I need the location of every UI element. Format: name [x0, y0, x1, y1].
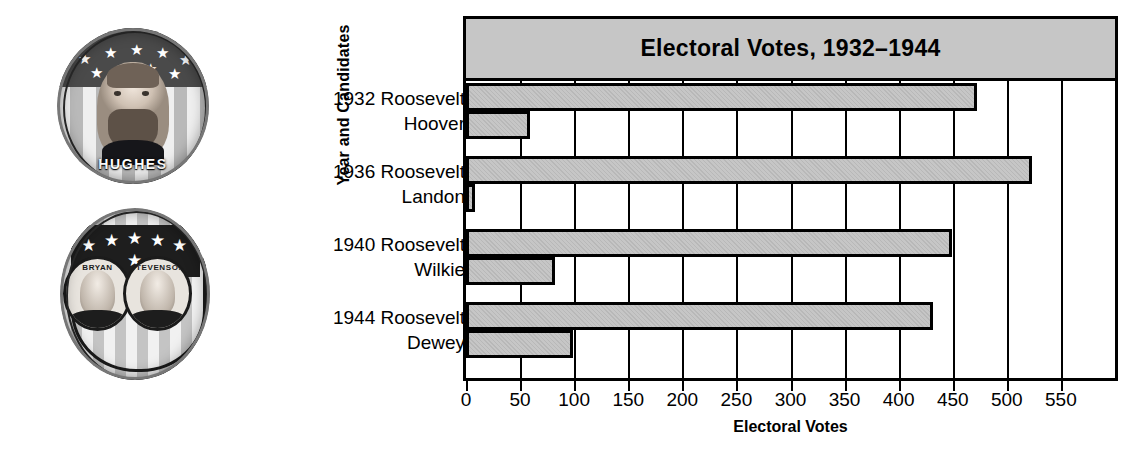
portrait-eye-left: [114, 91, 121, 96]
category-label-line-bottom: Wilkie: [270, 257, 465, 282]
star-icon: ★: [156, 45, 169, 60]
star-icon: ★: [78, 51, 91, 66]
hughes-portrait: [97, 62, 170, 159]
bar-1940-roosevelt: [466, 229, 952, 257]
portrait-hair: [107, 63, 160, 88]
plot-frame: Electoral Votes, 1932–1944: [463, 16, 1118, 381]
electoral-votes-bar-chart: Year and Candidates 1932 RooseveltHoover…: [230, 0, 1142, 453]
hughes-button-face: ★ ★ ★ ★ ★ ★ ★ ★ ★ HUGHES: [57, 28, 209, 184]
bar-1944-roosevelt: [466, 302, 933, 330]
chart-title: Electoral Votes, 1932–1944: [640, 35, 940, 62]
bar-1936-roosevelt: [466, 156, 1032, 184]
category-label-line-bottom: Hoover: [270, 111, 465, 136]
x-tick-label: 400: [883, 389, 915, 411]
portrait-shoulders: [130, 310, 185, 331]
x-tick-label: 250: [721, 389, 753, 411]
x-tick-label: 0: [461, 389, 472, 411]
category-label-line-bottom: Landon: [270, 184, 465, 209]
x-tick-label: 300: [775, 389, 807, 411]
campaign-button-photos: ★ ★ ★ ★ ★ ★ ★ ★ ★ HUGHES: [0, 0, 230, 453]
category-label-1944: 1944 RooseveltDewey: [270, 305, 465, 355]
plot-area: [466, 81, 1115, 378]
star-icon: ★: [104, 232, 119, 249]
gridline: [1007, 81, 1009, 378]
chart-title-band: Electoral Votes, 1932–1944: [466, 19, 1115, 81]
category-label-line-top: 1932 Roosevelt: [270, 86, 465, 111]
bar-1944-dewey: [466, 330, 573, 358]
star-icon: ★: [130, 42, 143, 57]
star-icon: ★: [168, 66, 181, 81]
x-tick-label: 500: [991, 389, 1023, 411]
gridline: [1061, 81, 1063, 378]
hughes-campaign-button: ★ ★ ★ ★ ★ ★ ★ ★ ★ HUGHES: [57, 28, 209, 184]
x-tick-label: 450: [937, 389, 969, 411]
bryan-portrait: BRYAN: [63, 256, 132, 331]
x-tick-label: 350: [829, 389, 861, 411]
bryan-stevenson-campaign-button: ★ ★ ★ ★ ★ ★ BRYAN STEVENSON: [60, 208, 210, 380]
bryan-stevenson-button-face: ★ ★ ★ ★ ★ ★ BRYAN STEVENSON: [60, 208, 210, 380]
bar-1932-hoover: [466, 111, 530, 139]
category-label-line-top: 1936 Roosevelt: [270, 159, 465, 184]
portrait-head: [80, 270, 115, 315]
category-axis-labels: 1932 RooseveltHoover1936 RooseveltLandon…: [270, 86, 465, 380]
x-axis-title: Electoral Votes: [463, 418, 1118, 436]
category-label-1936: 1936 RooseveltLandon: [270, 159, 465, 209]
portrait-head: [140, 270, 175, 315]
x-tick-label: 100: [558, 389, 590, 411]
category-label-line-bottom: Dewey: [270, 330, 465, 355]
star-icon: ★: [172, 237, 187, 254]
star-icon: ★: [127, 230, 142, 247]
star-icon: ★: [150, 232, 165, 249]
category-label-1940: 1940 RooseveltWilkie: [270, 232, 465, 282]
category-label-1932: 1932 RooseveltHoover: [270, 86, 465, 136]
bar-1936-landon: [466, 184, 475, 212]
portrait-eye-right: [142, 91, 149, 96]
star-icon: ★: [104, 45, 117, 60]
x-tick-label: 550: [1045, 389, 1077, 411]
x-axis-tick-labels: 050100150200250300350400450500550: [463, 389, 1118, 415]
category-label-line-top: 1940 Roosevelt: [270, 232, 465, 257]
hughes-button-caption: HUGHES: [72, 156, 194, 172]
bar-1940-wilkie: [466, 257, 555, 285]
category-label-line-top: 1944 Roosevelt: [270, 305, 465, 330]
bar-1932-roosevelt: [466, 83, 977, 111]
gridline: [953, 81, 955, 378]
x-tick-label: 200: [666, 389, 698, 411]
star-icon: ★: [81, 237, 96, 254]
star-icon: ★: [90, 65, 103, 80]
portrait-shoulders: [70, 310, 125, 331]
stevenson-portrait: STEVENSON: [123, 256, 192, 331]
x-tick-label: 150: [612, 389, 644, 411]
x-tick-label: 50: [510, 389, 531, 411]
